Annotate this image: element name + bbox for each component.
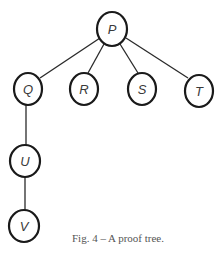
edge-p-t (126, 38, 188, 78)
node-p: P (97, 12, 127, 46)
edges (25, 38, 188, 210)
node-q: Q (14, 73, 42, 105)
edge-p-s (120, 44, 138, 73)
node-t: T (185, 75, 213, 107)
edge-p-q (40, 38, 100, 78)
node-v: V (9, 210, 39, 242)
node-q-label: Q (23, 82, 33, 97)
node-v-label: V (20, 219, 30, 234)
nodes: P Q R S T U V (9, 12, 213, 242)
node-p-label: P (108, 22, 117, 37)
node-t-label: T (195, 84, 204, 99)
node-u-label: U (20, 154, 30, 169)
node-r: R (70, 73, 98, 105)
edge-p-r (88, 44, 104, 73)
node-u: U (10, 145, 40, 177)
node-s: S (128, 73, 156, 105)
proof-tree-diagram: P Q R S T U V (0, 0, 223, 257)
node-r-label: R (79, 82, 88, 97)
node-s-label: S (138, 82, 147, 97)
figure-caption: Fig. 4 – A proof tree. (72, 232, 164, 244)
